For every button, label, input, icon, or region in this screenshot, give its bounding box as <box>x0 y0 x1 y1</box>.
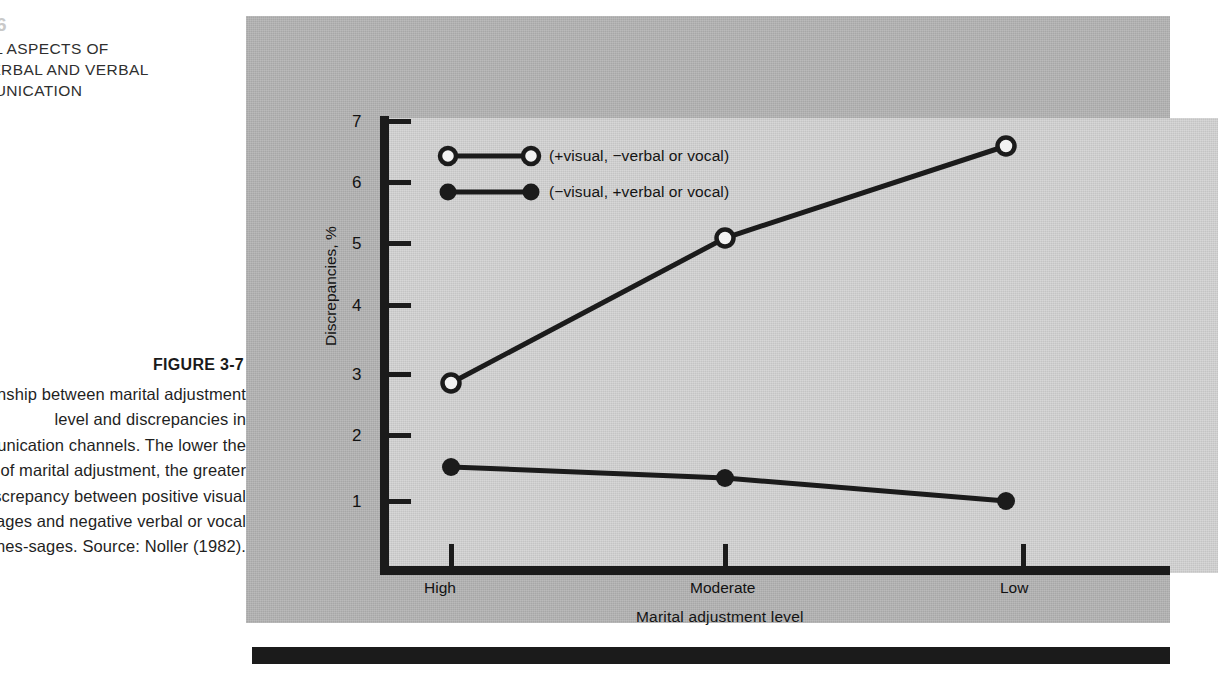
y-axis-line <box>380 116 389 575</box>
y-tick-label-3: 3 <box>352 365 361 385</box>
legend-marker-open-left <box>440 148 456 164</box>
data-point-filled-low <box>997 492 1015 510</box>
y-tick-7 <box>389 119 411 124</box>
legend-marks <box>440 148 540 201</box>
x-axis-title: Marital adjustment level <box>636 608 804 626</box>
figure-caption: Relationship between marital adjustment … <box>0 382 246 560</box>
legend-marker-open-right <box>523 148 539 164</box>
figure-panel: 7 6 5 4 3 2 1 Discrepancies, % High Mode… <box>246 16 1170 623</box>
data-point-open-moderate <box>717 230 734 247</box>
y-tick-4 <box>389 303 411 308</box>
y-tick-label-1: 1 <box>352 492 361 512</box>
y-tick-label-4: 4 <box>352 296 361 316</box>
x-tick-low <box>1021 544 1026 566</box>
y-tick-6 <box>389 180 411 185</box>
axes <box>380 116 1170 575</box>
page-number: 6 <box>0 14 7 36</box>
y-axis-ticks <box>389 119 411 504</box>
legend-label-open: (+visual, −verbal or vocal) <box>549 147 729 165</box>
legend-label-filled: (−visual, +verbal or vocal) <box>549 183 729 201</box>
data-point-filled-high <box>442 458 460 476</box>
chart-canvas <box>246 16 1170 623</box>
figure-label: FIGURE 3-7 <box>153 356 244 374</box>
series-filled-circle <box>442 458 1015 510</box>
legend-marker-filled-right <box>523 184 540 201</box>
x-category-label-moderate: Moderate <box>690 579 755 597</box>
y-tick-label-6: 6 <box>352 173 361 193</box>
legend-marker-filled-left <box>440 184 457 201</box>
data-point-open-low <box>998 138 1015 155</box>
running-head-line-2: NONVERBAL AND VERBAL <box>0 59 244 80</box>
y-tick-label-5: 5 <box>352 234 361 254</box>
data-point-open-high <box>443 375 460 392</box>
x-axis-ticks <box>449 544 1026 566</box>
running-head-line-3: COMMUNICATION <box>0 80 244 101</box>
y-tick-label-2: 2 <box>352 426 361 446</box>
y-tick-2 <box>389 433 411 438</box>
y-tick-1 <box>389 499 411 504</box>
x-tick-high <box>449 544 454 566</box>
x-category-label-low: Low <box>1000 579 1028 597</box>
y-tick-3 <box>389 372 411 377</box>
series-open-line <box>451 146 1006 383</box>
y-tick-5 <box>389 241 411 246</box>
y-axis-title: Discrepancies, % <box>322 226 340 346</box>
bottom-rule <box>252 647 1170 664</box>
x-axis-line <box>380 566 1170 575</box>
x-tick-moderate <box>723 544 728 566</box>
series-open-circle <box>443 138 1015 392</box>
x-category-label-high: High <box>424 579 456 597</box>
left-caption-column: 6 SOCIAL ASPECTS OF NONVERBAL AND VERBAL… <box>0 0 246 692</box>
running-head-line-1: SOCIAL ASPECTS OF <box>0 38 244 59</box>
running-head: SOCIAL ASPECTS OF NONVERBAL AND VERBAL C… <box>0 38 244 101</box>
y-tick-label-7: 7 <box>352 112 361 132</box>
data-point-filled-moderate <box>716 469 734 487</box>
